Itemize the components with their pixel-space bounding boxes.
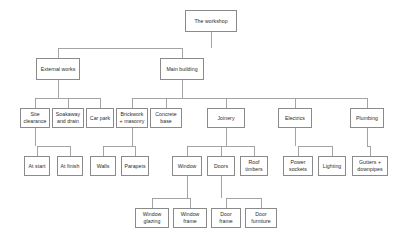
node-gutters[interactable]: Gutters + downpipes: [352, 156, 388, 176]
node-lighting[interactable]: Lighting: [318, 156, 346, 176]
node-label: Concrete base: [153, 111, 180, 125]
node-siteclear[interactable]: Site clearance: [20, 108, 50, 128]
node-doors[interactable]: Doors: [207, 156, 235, 176]
node-label: Walls: [93, 163, 114, 170]
node-carpark[interactable]: Car park: [86, 108, 114, 128]
node-label: Gutters + downpipes: [355, 159, 386, 173]
node-label: Site clearance: [23, 111, 48, 125]
node-label: At start: [27, 163, 48, 170]
node-label: At finish: [60, 163, 81, 170]
node-atstart[interactable]: At start: [24, 156, 50, 176]
node-window[interactable]: Window: [172, 156, 202, 176]
node-label: Brickwork + masonry: [119, 111, 146, 125]
node-label: Power sockets: [286, 159, 311, 173]
node-mainbuild[interactable]: Main building: [160, 58, 204, 80]
node-label: Parapets: [124, 163, 147, 170]
node-plumbing[interactable]: Plumbing: [350, 108, 384, 128]
node-root[interactable]: The workshop: [185, 10, 237, 32]
node-concrete[interactable]: Concrete base: [150, 108, 182, 128]
node-label: Lighting: [321, 163, 344, 170]
node-label: Window: [175, 163, 200, 170]
node-label: Window glazing: [138, 211, 167, 225]
node-label: Main building: [163, 66, 202, 73]
node-label: Roof timbers: [243, 159, 266, 173]
node-doorframe[interactable]: Door frame: [211, 208, 241, 228]
node-label: Electrics: [281, 115, 310, 122]
node-joinery[interactable]: Joinery: [207, 108, 245, 128]
node-winframe[interactable]: Window frame: [173, 208, 207, 228]
work-breakdown-structure-diagram: The workshopExternal worksMain buildingS…: [0, 0, 399, 242]
node-atfinish[interactable]: At finish: [57, 156, 83, 176]
node-label: Joinery: [210, 115, 243, 122]
node-winglazing[interactable]: Window glazing: [135, 208, 169, 228]
node-walls[interactable]: Walls: [90, 156, 116, 176]
node-label: Window frame: [176, 211, 205, 225]
node-label: Door furniture: [248, 211, 275, 225]
node-powersock[interactable]: Power sockets: [283, 156, 313, 176]
node-external[interactable]: External works: [36, 58, 80, 80]
node-brickwork[interactable]: Brickwork + masonry: [116, 108, 148, 128]
node-label: Car park: [89, 115, 112, 122]
node-doorfurn[interactable]: Door furniture: [245, 208, 277, 228]
node-label: Soakaway and drain: [55, 111, 82, 125]
node-electrics[interactable]: Electrics: [278, 108, 312, 128]
node-parapets[interactable]: Parapets: [121, 156, 149, 176]
node-label: Doors: [210, 163, 233, 170]
node-label: External works: [39, 66, 78, 73]
node-soakaway[interactable]: Soakaway and drain: [52, 108, 84, 128]
node-label: Door frame: [214, 211, 239, 225]
node-label: The workshop: [188, 18, 235, 25]
node-rooftimbers[interactable]: Roof timbers: [240, 156, 268, 176]
node-label: Plumbing: [353, 115, 382, 122]
